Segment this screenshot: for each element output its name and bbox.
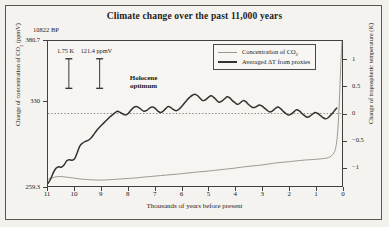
left-axis-title: Change of concentration of CO2 (ppmV)	[14, 0, 23, 150]
right-axis-tick-label: 0	[352, 109, 355, 116]
left-axis-tick-label: 330	[0, 97, 40, 104]
plot-inner: 1.75 K 121.4 ppmV Holocene optimum Conce…	[48, 41, 342, 186]
legend-swatch-delta-t-icon	[218, 61, 237, 63]
range-bar-temp	[65, 59, 72, 89]
range-bar-co2-label: 121.4 ppmV	[72, 47, 120, 54]
x-axis-tick-mark	[289, 187, 290, 191]
page-title: Climate change over the past 11,000 year…	[0, 11, 389, 21]
legend-swatch-co2-icon	[218, 52, 237, 53]
right-axis-title: Change of tropospheric temperature (K)	[367, 0, 374, 149]
right-axis-tick-label: 0.5	[352, 82, 360, 89]
holocene-line-2: optimum	[130, 82, 157, 90]
x-axis-tick-label: 5	[198, 190, 218, 198]
left-axis-title-text: Change of concentration of CO	[14, 47, 21, 126]
x-axis-tick-label: 4	[225, 190, 245, 198]
x-axis-tick-mark	[155, 187, 156, 191]
x-axis-tick-mark	[262, 187, 263, 191]
x-axis-tick-mark	[101, 187, 102, 191]
right-axis-tick-label: 1	[352, 55, 355, 62]
range-bar-co2	[96, 59, 103, 89]
right-axis-tick-label: −1	[352, 163, 359, 170]
left-axis-tick-label: 259.3	[0, 183, 40, 190]
x-axis-tick-mark	[316, 187, 317, 191]
right-axis-tick-mark	[343, 59, 347, 60]
x-axis-tick-label: 2	[279, 190, 299, 198]
x-axis-tick-mark	[47, 187, 48, 191]
x-axis-tick-label: 8	[118, 190, 138, 198]
x-axis-tick-mark	[74, 187, 75, 191]
x-axis-tick-label: 0	[333, 190, 353, 198]
x-axis-tick-mark	[343, 187, 344, 191]
x-axis-tick-mark	[128, 187, 129, 191]
legend-label-co2: Concentration of CO2	[242, 48, 298, 57]
x-axis-tick-mark	[235, 187, 236, 191]
legend-label-co2-sub: 2	[296, 52, 298, 57]
x-axis-tick-label: 10	[64, 190, 84, 198]
x-axis-tick-label: 1	[306, 190, 326, 198]
right-axis-tick-mark	[343, 114, 347, 115]
x-axis-tick-mark	[208, 187, 209, 191]
left-axis-tick-label: 380.7	[0, 36, 40, 43]
x-axis-tick-mark	[182, 187, 183, 191]
legend: Concentration of CO2 Averaged ΔT from pr…	[213, 44, 316, 70]
right-axis-tick-label: −0.5	[352, 136, 364, 143]
x-axis-tick-label: 6	[172, 190, 192, 198]
right-axis-tick-mark	[343, 168, 347, 169]
x-axis-tick-label: 11	[37, 190, 57, 198]
x-axis-tick-label: 3	[252, 190, 272, 198]
x-axis-tick-label: 9	[91, 190, 111, 198]
right-axis-tick-mark	[343, 86, 347, 87]
right-axis-tick-mark	[343, 141, 347, 142]
bp-corner-label: 10822 BP	[33, 26, 59, 33]
legend-label-co2-text: Concentration of CO	[242, 48, 296, 55]
left-axis-title-sub: 2	[19, 45, 24, 47]
figure-root: Climate change over the past 11,000 year…	[0, 0, 389, 227]
legend-item-co2: Concentration of CO2	[218, 48, 310, 57]
holocene-optimum-annotation: Holocene optimum	[118, 75, 170, 90]
legend-label-delta-t: Averaged ΔT from proxies	[242, 58, 310, 65]
legend-item-delta-t: Averaged ΔT from proxies	[218, 57, 310, 66]
x-axis-title: Thousands of years before present	[0, 202, 389, 210]
x-axis-tick-label: 7	[145, 190, 165, 198]
plot-area: 1.75 K 121.4 ppmV Holocene optimum Conce…	[47, 40, 343, 187]
